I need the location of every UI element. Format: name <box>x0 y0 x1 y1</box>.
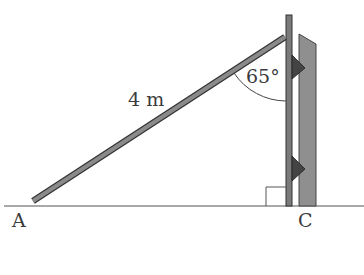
diagram-canvas: 65° 4 m A C <box>0 0 364 275</box>
right-angle-marker <box>266 187 286 206</box>
wall-panel <box>299 34 316 206</box>
vertical-pole <box>286 15 292 206</box>
ladder <box>33 37 285 201</box>
angle-label: 65° <box>246 65 280 87</box>
point-a-label: A <box>11 209 26 231</box>
diagram-svg: 65° 4 m A C <box>0 0 364 275</box>
ladder-length-label: 4 m <box>128 88 164 110</box>
point-c-label: C <box>298 209 313 231</box>
